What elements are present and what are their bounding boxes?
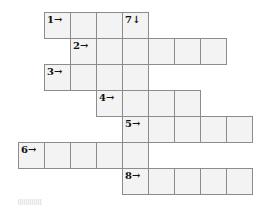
crossword-cell[interactable] [200, 38, 227, 65]
crossword-cell[interactable] [148, 90, 175, 117]
clue-number-label: 2→ [73, 40, 88, 52]
crossword-cell[interactable] [174, 38, 201, 65]
crossword-cell[interactable]: 5→ [122, 116, 149, 143]
crossword-cell[interactable] [122, 38, 149, 65]
crossword-cell[interactable] [200, 168, 227, 195]
crossword-cell[interactable] [200, 116, 227, 143]
crossword-cell[interactable] [148, 168, 175, 195]
clue-number-label: 7↓ [125, 14, 140, 26]
crossword-cell[interactable]: 6→ [18, 142, 45, 169]
crossword-cell[interactable] [122, 142, 149, 169]
crossword-cell[interactable]: 8→ [122, 168, 149, 195]
clue-number-label: 1→ [47, 14, 62, 26]
crossword-cell[interactable] [96, 12, 123, 39]
crossword-cell[interactable]: 3→ [44, 64, 71, 91]
clue-number-label: 8→ [125, 170, 140, 182]
crossword-cell[interactable] [148, 116, 175, 143]
watermark [18, 199, 42, 205]
crossword-cell[interactable] [70, 12, 97, 39]
crossword-cell[interactable] [226, 168, 253, 195]
crossword-cell[interactable]: 4→ [96, 90, 123, 117]
crossword-cell[interactable] [70, 142, 97, 169]
clue-number-label: 4→ [99, 92, 114, 104]
crossword-cell[interactable] [96, 142, 123, 169]
crossword-cell[interactable] [96, 38, 123, 65]
clue-number-label: 3→ [47, 66, 62, 78]
crossword-cell[interactable] [122, 90, 149, 117]
crossword-cell[interactable] [174, 90, 201, 117]
clue-number-label: 5→ [125, 118, 140, 130]
crossword-cell[interactable]: 2→ [70, 38, 97, 65]
crossword-cell[interactable]: 7↓ [122, 12, 149, 39]
crossword-cell[interactable] [174, 168, 201, 195]
crossword-cell[interactable] [44, 142, 71, 169]
crossword-cell[interactable] [226, 116, 253, 143]
clue-number-label: 6→ [21, 144, 36, 156]
crossword-cell[interactable] [70, 64, 97, 91]
crossword-cell[interactable] [122, 64, 149, 91]
crossword-grid: 1→7↓2→3→4→5→6→8→ [0, 0, 261, 216]
crossword-cell[interactable] [96, 64, 123, 91]
crossword-cell[interactable]: 1→ [44, 12, 71, 39]
crossword-cell[interactable] [148, 38, 175, 65]
crossword-cell[interactable] [174, 116, 201, 143]
